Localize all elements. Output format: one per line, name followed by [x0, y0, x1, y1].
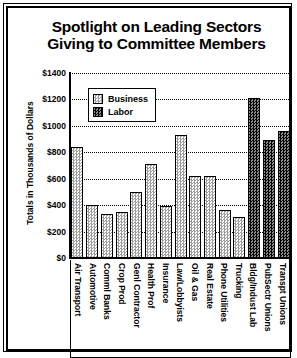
x-tick-label: Phone Utilities [220, 263, 229, 322]
bar[interactable] [71, 147, 83, 258]
x-label-slot: Air Transport [71, 260, 86, 357]
y-tick-label: $400 [47, 200, 66, 210]
x-tick-label: Law/Lobbyists [176, 263, 185, 322]
x-tick-label: Automotive [89, 263, 98, 310]
bar[interactable] [116, 212, 128, 258]
legend-item-business: Business [93, 92, 148, 105]
x-tick-label: Insurance [162, 263, 171, 303]
x-tick-label: Oil & Gas [191, 263, 200, 301]
x-label-slot: Oil & Gas [188, 260, 203, 357]
y-tick-label: $1400 [42, 68, 66, 78]
x-axis-category-labels: Air TransportAutomotiveComml BanksCrop P… [70, 260, 291, 358]
chart-panel: Spotlight on Leading Sectors Giving to C… [6, 6, 291, 351]
x-label-slot: Health Prof [144, 260, 159, 357]
x-tick-label: Real Estate [205, 263, 214, 309]
bar[interactable] [204, 176, 216, 258]
y-tick-label: $600 [47, 174, 66, 184]
x-label-slot: Law/Lobbyists [173, 260, 188, 357]
x-label-slot: Automotive [86, 260, 101, 357]
y-axis-tick-labels: $1400$1200$1000$800$600$400$200$0 [22, 68, 66, 264]
bar-slot [262, 73, 277, 258]
bar-slot [173, 73, 188, 258]
bar[interactable] [263, 140, 275, 258]
bar-slot [70, 73, 85, 258]
bar[interactable] [219, 210, 231, 258]
x-label-slot: PubSectr Unions [261, 260, 276, 357]
bar-slot [217, 73, 232, 258]
x-tick-label: Trucking [235, 263, 244, 298]
x-label-slot: Comml Banks [100, 260, 115, 357]
bar[interactable] [189, 176, 201, 258]
x-label-slot: Insurance [159, 260, 174, 357]
legend-label-labor: Labor [108, 107, 133, 117]
chart-title: Spotlight on Leading Sectors Giving to C… [18, 18, 295, 52]
bar-slot [232, 73, 247, 258]
x-tick-label: PubSectr Unions [264, 263, 273, 331]
chart-title-line-2: Giving to Committee Members [18, 35, 295, 52]
y-tick-label: $1200 [42, 94, 66, 104]
x-tick-label: Comml Banks [103, 263, 112, 320]
bar[interactable] [278, 131, 290, 258]
x-tick-label: Genl Contractor [132, 263, 141, 328]
x-label-slot: Bldg/Indust Lab [246, 260, 261, 357]
bar-slot [203, 73, 218, 258]
bar-slot [188, 73, 203, 258]
bar[interactable] [233, 217, 245, 258]
x-tick-label: Transpt Unions [278, 263, 287, 325]
legend-swatch-business-icon [93, 94, 103, 104]
x-tick-label: Bldg/Indust Lab [249, 263, 258, 327]
bar[interactable] [145, 164, 157, 258]
bar-slot [158, 73, 173, 258]
x-tick-label: Air Transport [74, 263, 83, 316]
legend-item-labor: Labor [93, 105, 148, 118]
bar-slot [247, 73, 262, 258]
chart-legend: Business Labor [88, 88, 156, 122]
y-tick-label: $200 [47, 227, 66, 237]
bar-slot [276, 73, 291, 258]
bar[interactable] [248, 98, 260, 258]
x-label-slot: Transpt Unions [275, 260, 290, 357]
bar[interactable] [101, 214, 113, 258]
y-tick-label: $0 [57, 253, 66, 263]
y-tick-label: $1000 [42, 121, 66, 131]
chart-title-line-1: Spotlight on Leading Sectors [18, 18, 295, 35]
x-label-slot: Genl Contractor [129, 260, 144, 357]
bar[interactable] [130, 192, 142, 258]
x-label-slot: Trucking [232, 260, 247, 357]
x-tick-label: Health Prof [147, 263, 156, 308]
bar[interactable] [86, 205, 98, 258]
x-label-slot: Real Estate [202, 260, 217, 357]
legend-swatch-labor-icon [93, 107, 103, 117]
bar[interactable] [160, 206, 172, 258]
x-tick-label: Crop Prod [118, 263, 127, 305]
y-tick-label: $800 [47, 147, 66, 157]
legend-label-business: Business [108, 94, 148, 104]
bar[interactable] [175, 135, 187, 258]
x-label-slot: Phone Utilities [217, 260, 232, 357]
x-label-slot: Crop Prod [115, 260, 130, 357]
